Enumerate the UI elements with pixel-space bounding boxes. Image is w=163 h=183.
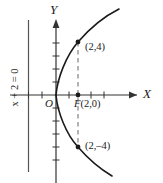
point-label-lower: (2,–4) [85,141,110,152]
figure-canvas [0,0,163,183]
x-axis-arrowhead [129,92,137,99]
y-axis-label: Y [50,3,57,16]
x-axis-label: X [143,87,151,100]
parabola-figure: X Y O x + 2 = 0 (2,4) (2,–4) F(2,0) [0,0,163,183]
point-marker-focus [76,93,81,98]
focus-label: F(2,0) [74,99,101,110]
y-axis-arrowhead [53,19,60,28]
focus-coordinates: (2,0) [80,98,100,109]
point-label-upper: (2,4) [85,42,105,53]
directrix-equation-label: x + 2 = 0 [10,68,21,106]
origin-label: O [45,98,53,109]
point-marker-upper [76,40,81,45]
point-marker-lower [76,145,81,150]
